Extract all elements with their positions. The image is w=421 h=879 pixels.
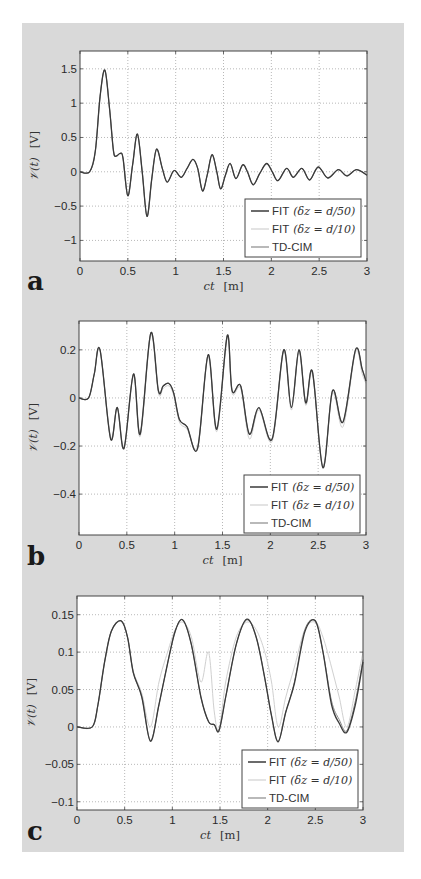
x-axis-symbol: ct [200, 828, 211, 842]
y-axis-symbol: 𝒱(t) [24, 704, 38, 728]
legend-entry-math: (δz = d/10) [290, 774, 352, 787]
legend: FIT(δz = d/50)FIT(δz = d/10)TD-CIM [244, 475, 360, 533]
legend-entry-prefix: FIT [272, 223, 289, 235]
y-tick-label: 0.2 [60, 344, 76, 356]
x-tick-label: 2.5 [307, 814, 323, 826]
legend-entry-prefix: FIT [271, 481, 288, 493]
y-axis-label: 𝒱(t)[V] [27, 131, 41, 181]
legend-entry: TD-CIM [271, 517, 311, 529]
x-tick-label: 3 [360, 814, 366, 826]
x-tick-label: 0.5 [120, 265, 136, 277]
x-tick-label: 0 [76, 539, 82, 551]
x-axis-symbol: ct [204, 279, 215, 293]
legend: FIT(δz = d/50)FIT(δz = d/10)TD-CIM [242, 750, 358, 808]
legend-entry-prefix: TD-CIM [272, 241, 312, 253]
y-axis-symbol: 𝒱(t) [27, 157, 41, 181]
x-tick-label: 2 [267, 539, 273, 551]
x-tick-label: 1.5 [212, 814, 228, 826]
legend-entry-prefix: FIT [269, 756, 286, 768]
legend-entry-prefix: FIT [269, 774, 286, 786]
x-axis-symbol: ct [203, 553, 214, 567]
y-tick-label: 0.5 [61, 131, 77, 143]
x-tick-label: 2 [264, 814, 270, 826]
y-tick-label: 0.1 [58, 646, 74, 658]
legend-entry-math: (δz = d/50) [290, 756, 352, 769]
y-axis-unit: [V] [26, 403, 40, 420]
y-tick-label: −0.5 [54, 200, 77, 212]
figure-canvas: 00.511.522.53−1−0.500.511.5ct[m]𝒱(t)[V]F… [22, 23, 404, 852]
y-tick-label: −0.2 [53, 440, 76, 452]
x-axis-unit: [m] [220, 828, 240, 842]
legend-entry: FIT(δz = d/50) [272, 205, 355, 218]
legend-entry-math: (δz = d/50) [292, 481, 354, 494]
x-tick-label: 2.5 [311, 265, 327, 277]
y-tick-label: −1 [64, 234, 77, 246]
y-tick-label: 0 [70, 392, 76, 404]
x-axis-label: ct[m] [204, 279, 244, 293]
legend-entry-prefix: TD-CIM [269, 792, 309, 804]
x-tick-label: 0.5 [119, 539, 135, 551]
legend-entry: TD-CIM [272, 241, 312, 253]
legend-entry: FIT(δz = d/10) [269, 774, 352, 787]
x-tick-label: 3 [363, 539, 369, 551]
x-axis-unit: [m] [223, 553, 243, 567]
x-tick-label: 1.5 [215, 539, 231, 551]
legend-entry: FIT(δz = d/10) [271, 499, 354, 512]
legend: FIT(δz = d/50)FIT(δz = d/10)TD-CIM [245, 199, 361, 257]
y-tick-label: 1 [71, 97, 77, 109]
panel-letter-b: b [27, 541, 45, 571]
x-tick-label: 1 [171, 539, 177, 551]
x-tick-label: 2 [268, 265, 274, 277]
y-axis-label: 𝒱(t)[V] [24, 678, 38, 728]
legend-entry: FIT(δz = d/10) [272, 223, 355, 236]
x-tick-label: 2.5 [310, 539, 326, 551]
legend-entry-prefix: FIT [272, 205, 289, 217]
y-axis-unit: [V] [27, 131, 41, 148]
y-tick-label: −0.4 [53, 488, 76, 500]
y-axis-unit: [V] [24, 678, 38, 695]
x-tick-label: 3 [364, 265, 370, 277]
x-tick-label: 0 [74, 814, 80, 826]
chart-panel-a: 00.511.522.53−1−0.500.511.5ct[m]𝒱(t)[V]F… [27, 51, 370, 296]
y-tick-label: 0 [68, 721, 74, 733]
y-axis-symbol: 𝒱(t) [26, 429, 40, 453]
panel-letter-c: c [27, 816, 43, 846]
y-tick-label: 0.15 [52, 609, 74, 621]
x-tick-label: 0.5 [117, 814, 133, 826]
panel-letter-a: a [27, 266, 44, 296]
y-tick-label: −0.05 [45, 758, 74, 770]
x-axis-unit: [m] [224, 279, 244, 293]
y-tick-label: 0.05 [52, 684, 74, 696]
legend-entry: TD-CIM [269, 792, 309, 804]
figure-panel-background: 00.511.522.53−1−0.500.511.5ct[m]𝒱(t)[V]F… [22, 23, 404, 852]
x-axis-label: ct[m] [203, 553, 243, 567]
x-axis-label: ct[m] [200, 828, 240, 842]
y-tick-label: 0 [71, 166, 77, 178]
legend-entry-prefix: TD-CIM [271, 517, 311, 529]
legend-entry: FIT(δz = d/50) [269, 756, 352, 769]
y-tick-label: 1.5 [61, 63, 77, 75]
y-axis-label: 𝒱(t)[V] [26, 403, 40, 453]
y-tick-label: −0.1 [51, 796, 74, 808]
legend-entry: FIT(δz = d/50) [271, 481, 354, 494]
legend-entry-prefix: FIT [271, 499, 288, 511]
chart-panel-c: 00.511.522.53−0.1−0.0500.050.10.15ct[m]𝒱… [24, 596, 366, 846]
chart-panel-b: 00.511.522.53−0.4−0.200.2ct[m]𝒱(t)[V]FIT… [26, 321, 369, 571]
legend-entry-math: (δz = d/50) [293, 205, 355, 218]
legend-entry-math: (δz = d/10) [293, 223, 355, 236]
x-tick-label: 1 [172, 265, 178, 277]
x-tick-label: 1.5 [216, 265, 232, 277]
legend-entry-math: (δz = d/10) [292, 499, 354, 512]
x-tick-label: 1 [169, 814, 175, 826]
x-tick-label: 0 [77, 265, 83, 277]
